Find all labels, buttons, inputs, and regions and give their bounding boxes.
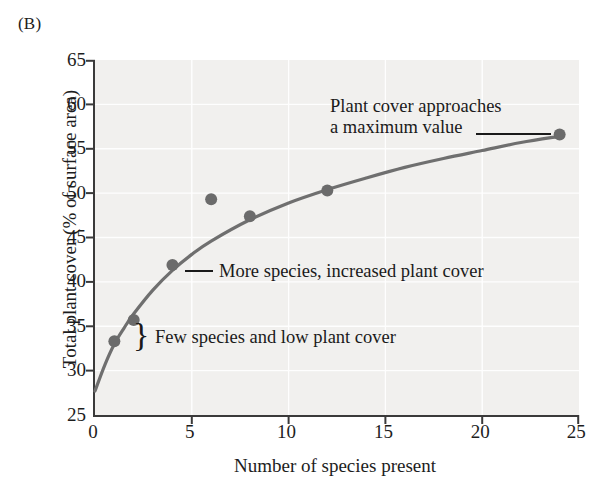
x-tick-label: 10 <box>267 422 307 441</box>
data-point <box>321 184 333 196</box>
y-tick-label: 55 <box>52 138 86 157</box>
annotation-max-line2: a maximum value <box>330 117 502 138</box>
data-point <box>244 210 256 222</box>
x-tick-label: 0 <box>73 422 113 441</box>
data-point <box>108 335 120 347</box>
panel-label: (B) <box>18 14 41 34</box>
data-point <box>166 259 178 271</box>
y-tick-label: 30 <box>52 360 86 379</box>
figure-panel-b: (B) Total plant cover (% of surface area… <box>0 0 610 504</box>
y-tick-label: 35 <box>52 316 86 335</box>
annotation-few-species: Few species and low plant cover <box>155 327 396 348</box>
y-axis-tick-labels: 65 60 55 50 45 40 35 30 25 <box>40 60 86 415</box>
data-point <box>205 193 217 205</box>
annotation-max-value: Plant cover approaches a maximum value <box>330 96 502 138</box>
x-tick-label: 20 <box>460 422 500 441</box>
annotation-more-species: More species, increased plant cover <box>219 261 484 282</box>
brace-icon: } <box>133 318 149 352</box>
x-tick-label: 5 <box>170 422 210 441</box>
x-tick-label: 15 <box>363 422 403 441</box>
data-point-group <box>108 129 565 348</box>
y-tick-label: 40 <box>52 271 86 290</box>
annotation-max-line1: Plant cover approaches <box>330 96 502 117</box>
y-tick-label: 45 <box>52 227 86 246</box>
data-point <box>554 129 566 141</box>
y-tick-label: 65 <box>52 50 86 69</box>
y-tick-label: 50 <box>52 183 86 202</box>
x-axis-tick-labels: 0 5 10 15 20 25 <box>93 422 577 448</box>
y-tick-label: 60 <box>52 94 86 113</box>
x-axis-title: Number of species present <box>93 455 577 477</box>
x-tick-label: 25 <box>556 422 596 441</box>
